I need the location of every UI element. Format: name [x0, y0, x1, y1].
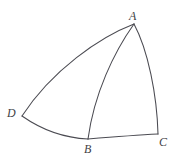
geometric-figure: A B C D — [0, 0, 177, 160]
arc-a-to-c — [134, 24, 158, 134]
vertex-label-c: C — [159, 136, 167, 148]
vertex-label-a: A — [129, 10, 136, 22]
arc-d-to-b — [22, 116, 88, 139]
arc-a-to-d — [22, 24, 134, 116]
figure-canvas — [0, 0, 177, 160]
arc-a-to-b — [88, 24, 134, 139]
vertex-label-b: B — [84, 143, 91, 155]
arc-b-to-c — [88, 134, 158, 139]
vertex-label-d: D — [7, 107, 16, 119]
